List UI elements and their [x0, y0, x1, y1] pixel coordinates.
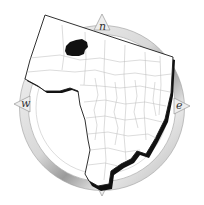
- compass-label-west: w: [21, 97, 31, 110]
- compass-label-east: e: [176, 99, 183, 112]
- map-figure: n w e: [0, 0, 204, 205]
- compass-label-north: n: [99, 20, 106, 33]
